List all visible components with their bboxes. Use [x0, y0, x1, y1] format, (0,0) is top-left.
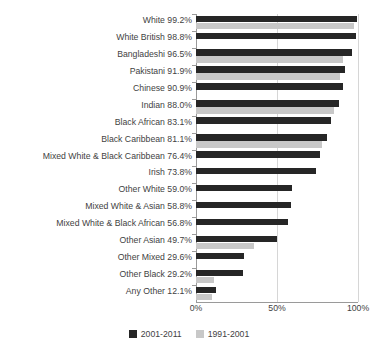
bar-row: Other Mixed 29.6%	[0, 251, 378, 268]
bar-series-2001-2011	[196, 16, 357, 22]
category-label: White British 98.8%	[116, 32, 192, 42]
bar-row: Black African 83.1%	[0, 116, 378, 133]
category-label: Other Mixed 29.6%	[118, 252, 192, 262]
x-tick-label: 50%	[268, 303, 285, 313]
bar-series-2001-2011	[196, 33, 356, 39]
category-label: Other Black 29.2%	[120, 269, 192, 279]
legend-swatch-icon	[129, 330, 137, 338]
bar-row: Other Asian 49.7%	[0, 234, 378, 251]
category-label: Mixed White & Black African 56.8%	[56, 218, 192, 228]
legend-item[interactable]: 1991-2001	[196, 329, 250, 339]
bar-row: Other Black 29.2%	[0, 268, 378, 285]
plot-area: White 99.2%White British 98.8%Bangladesh…	[0, 14, 378, 302]
bar-row: Indian 88.0%	[0, 99, 378, 116]
chart-title	[0, 0, 378, 2]
legend-item[interactable]: 2001-2011	[129, 329, 182, 339]
x-tick-label: 100%	[347, 303, 369, 313]
category-label: Black African 83.1%	[115, 117, 192, 127]
bar-series-2001-2011	[196, 168, 316, 174]
chart-legend: 2001-20111991-2001	[0, 327, 378, 341]
bar-series-2001-2011	[196, 253, 244, 259]
category-label: Black Caribbean 81.1%	[101, 134, 192, 144]
bar-row: Mixed White & Black African 56.8%	[0, 217, 378, 234]
bar-row: Bangladeshi 96.5%	[0, 48, 378, 65]
legend-label: 2001-2011	[141, 329, 182, 339]
bar-row: Black Caribbean 81.1%	[0, 133, 378, 150]
bar-series-1991-2001	[196, 73, 340, 79]
bar-series-1991-2001	[196, 56, 343, 62]
category-label: Pakistani 91.9%	[130, 66, 192, 76]
bar-series-2001-2011	[196, 287, 216, 293]
bar-row: Mixed White & Asian 58.8%	[0, 200, 378, 217]
category-label: Mixed White & Asian 58.8%	[85, 201, 192, 211]
category-label: Bangladeshi 96.5%	[117, 49, 192, 59]
category-label: Chinese 90.9%	[133, 83, 192, 93]
bar-series-1991-2001	[196, 107, 334, 113]
bar-series-2001-2011	[196, 134, 327, 140]
category-label: Irish 73.8%	[149, 167, 192, 177]
bar-series-1991-2001	[196, 294, 212, 300]
bar-row: Any Other 12.1%	[0, 285, 378, 302]
bar-series-2001-2011	[196, 66, 345, 72]
bar-row: White 99.2%	[0, 14, 378, 31]
bar-row: Chinese 90.9%	[0, 82, 378, 99]
bar-series-1991-2001	[196, 23, 354, 29]
bar-series-2001-2011	[196, 236, 277, 242]
bar-series-2001-2011	[196, 270, 243, 276]
legend-swatch-icon	[196, 330, 204, 338]
bar-series-1991-2001	[196, 277, 214, 283]
bar-series-1991-2001	[196, 141, 322, 147]
bar-series-2001-2011	[196, 185, 292, 191]
bar-row: White British 98.8%	[0, 31, 378, 48]
category-label: Other Asian 49.7%	[120, 235, 192, 245]
bar-row: Irish 73.8%	[0, 166, 378, 183]
bar-series-2001-2011	[196, 117, 331, 123]
x-axis-tick-labels: 0%50%100%	[0, 303, 378, 316]
category-label: Mixed White & Black Caribbean 76.4%	[43, 151, 192, 161]
bar-series-2001-2011	[196, 219, 288, 225]
bar-series-2001-2011	[196, 83, 343, 89]
bar-series-2001-2011	[196, 151, 320, 157]
category-label: Other White 59.0%	[119, 184, 192, 194]
bar-chart: White 99.2%White British 98.8%Bangladesh…	[0, 0, 378, 348]
x-tick-label: 0%	[190, 303, 203, 313]
category-label: Any Other 12.1%	[126, 286, 192, 296]
category-label: White 99.2%	[143, 15, 192, 25]
bar-series-1991-2001	[196, 243, 254, 249]
bar-series-2001-2011	[196, 100, 339, 106]
bar-series-2001-2011	[196, 202, 291, 208]
bar-series-2001-2011	[196, 49, 352, 55]
bar-row: Mixed White & Black Caribbean 76.4%	[0, 150, 378, 167]
category-label: Indian 88.0%	[141, 100, 192, 110]
bar-row: Pakistani 91.9%	[0, 65, 378, 82]
legend-label: 1991-2001	[208, 329, 250, 339]
bar-row: Other White 59.0%	[0, 183, 378, 200]
bar-rows: White 99.2%White British 98.8%Bangladesh…	[0, 14, 378, 302]
